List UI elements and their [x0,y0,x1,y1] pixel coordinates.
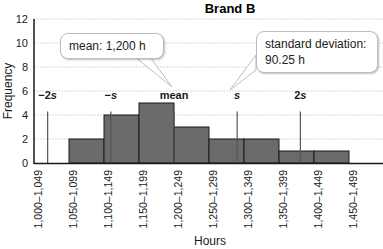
x-tick-label: 1,000–1,049 [32,170,44,229]
histogram-bar [209,139,244,163]
y-tick-label: 4 [22,109,28,121]
sd-callout-pointer [230,55,256,90]
x-tick-label: 1,450–1,499 [347,170,359,229]
histogram-bar [104,115,139,163]
y-tick-label: 8 [22,61,28,73]
sd-callout: standard deviation: 90.25 h [256,31,378,73]
x-tick-label: 1,050–1,099 [67,170,79,229]
histogram-bar [69,139,104,163]
histogram-bar [139,103,174,163]
y-tick-label: 12 [16,13,28,25]
mean-callout-pointer [135,57,172,87]
y-axis-ticks: 024681012 [16,13,28,169]
mean-callout: mean: 1,200 h [60,33,164,59]
x-tick-label: 1,200–1,249 [172,170,184,229]
x-tick-label: 1,250–1,299 [207,170,219,229]
x-tick-label: 1,300–1,349 [242,170,254,229]
chart-title: Brand B [205,1,256,16]
sd-marker-label: 2s [294,89,306,101]
sd-marker-label: mean [160,89,189,101]
sd-marker-label: −s [105,89,118,101]
x-tick-label: 1,100–1,149 [102,170,114,229]
y-tick-label: 10 [16,37,28,49]
sd-callout-line2: 90.25 h [265,52,369,68]
sd-marker-label: s [234,89,240,101]
histogram-bar [314,151,349,163]
y-tick-label: 0 [22,157,28,169]
x-tick-label: 1,400–1,449 [312,170,324,229]
sd-marker-label: −2s [38,89,57,101]
histogram-bar [279,151,314,163]
y-axis-label: Frequency [1,63,15,120]
histogram-bar [174,127,209,163]
x-axis-ticks: 1,000–1,0491,050–1,0991,100–1,1491,150–1… [32,170,359,229]
y-tick-label: 2 [22,133,28,145]
histogram-bar [244,139,279,163]
sd-callout-line1: standard deviation: [265,36,369,52]
y-tick-label: 6 [22,85,28,97]
mean-callout-text: mean: 1,200 h [69,39,146,53]
x-tick-label: 1,150–1,199 [137,170,149,229]
x-tick-label: 1,350–1,399 [277,170,289,229]
x-axis-label: Hours [194,234,226,248]
